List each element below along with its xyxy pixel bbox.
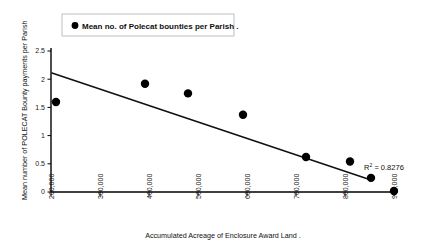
y-tick-label-4: 2 (41, 76, 45, 83)
x-tick-label-1: 300,000 (97, 174, 104, 199)
x-tick-label-6: 800,000 (342, 174, 349, 199)
data-point (239, 111, 247, 119)
legend-label-series-0: Mean no. of Polecat bounties per Parish … (82, 22, 238, 31)
x-tick-label-4: 600,000 (244, 174, 251, 199)
chart-container: Mean no. of Polecat bounties per Parish … (0, 0, 430, 252)
y-tick-label-5: 2.5 (35, 47, 45, 54)
chart-legend: Mean no. of Polecat bounties per Parish … (62, 14, 238, 36)
r-squared-value: = 0.8276 (372, 163, 404, 172)
y-tick-label-1: 0.5 (35, 160, 45, 167)
x-tick-label-5: 700,000 (293, 174, 300, 199)
data-point (141, 80, 149, 88)
legend-marker-icon (72, 22, 79, 29)
y-tick-label-2: 1 (41, 132, 45, 139)
data-point (302, 153, 310, 161)
x-tick-label-0: 200,000 (48, 174, 55, 199)
data-point (390, 187, 398, 195)
y-tick-label-0: 0 (41, 188, 45, 195)
data-point (184, 89, 192, 97)
scatter-chart: Mean no. of Polecat bounties per Parish … (0, 0, 430, 252)
x-tick-label-2: 400,000 (146, 174, 153, 199)
y-tick-label-3: 1.5 (35, 104, 45, 111)
y-axis-title: Mean number of POLECAT Bounty payments p… (20, 20, 29, 200)
x-tick-label-3: 500,000 (195, 174, 202, 199)
data-point (52, 98, 60, 106)
chart-background (0, 0, 430, 252)
data-point (346, 157, 354, 165)
x-axis-title: Accumulated Acreage of Enclosure Award L… (145, 231, 301, 240)
data-point (367, 174, 375, 182)
